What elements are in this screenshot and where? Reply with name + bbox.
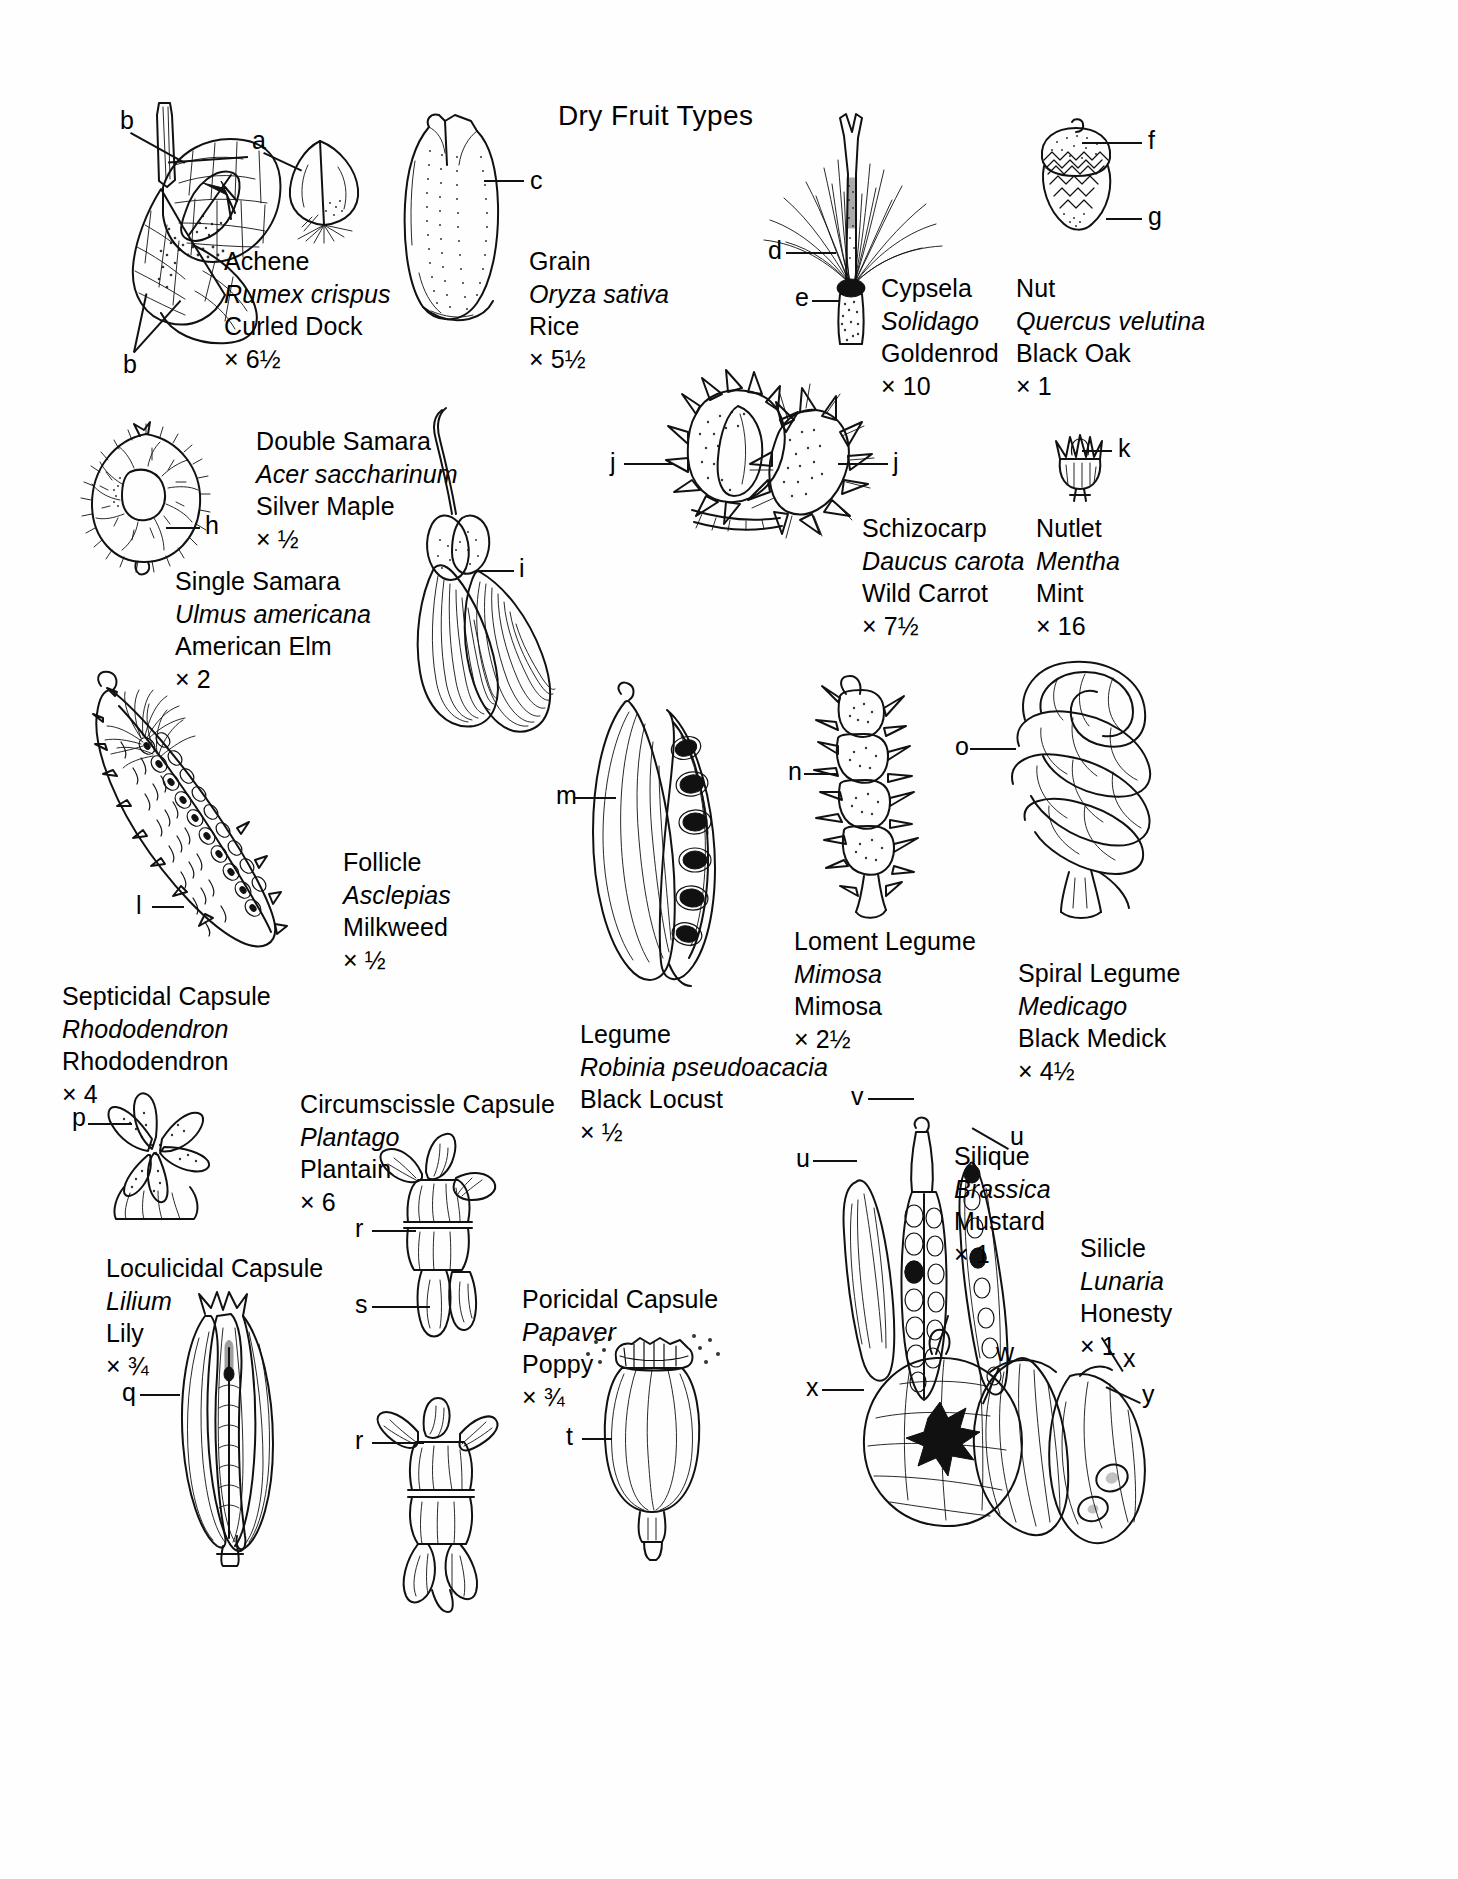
caption-scientific: Ulmus americana [175, 598, 371, 631]
leader-letter-f: f [1148, 128, 1155, 153]
caption-scientific: Lunaria [1080, 1265, 1172, 1298]
caption-type: Schizocarp [862, 512, 1025, 545]
leader-line-h [166, 527, 200, 529]
leader-line-i [478, 570, 514, 572]
caption-magnification: × 7½ [862, 610, 1025, 643]
leader-line-g [1106, 218, 1142, 220]
leader-letter-t: t [566, 1424, 573, 1449]
leader-letter-h: h [205, 513, 219, 538]
leader-letter-d: d [768, 238, 782, 263]
figure-nutlet [1040, 425, 1120, 503]
leader-letter-o: o [955, 734, 969, 759]
leader-line-o [970, 748, 1016, 750]
caption-type: Loment Legume [794, 925, 976, 958]
caption-magnification: × 10 [881, 370, 999, 403]
caption-type: Nut [1016, 272, 1205, 305]
caption-common: Milkweed [343, 911, 451, 944]
figure-circumscissle-lower [360, 1390, 520, 1620]
caption-silique: Silique Brassica Mustard × 1 [954, 1140, 1051, 1270]
leader-line-x1 [822, 1389, 864, 1391]
caption-loment-legume: Loment Legume Mimosa Mimosa × 2½ [794, 925, 976, 1055]
leader-letter-k: k [1118, 436, 1131, 461]
caption-scientific: Quercus velutina [1016, 305, 1205, 338]
caption-common: Black Oak [1016, 337, 1205, 370]
caption-common: American Elm [175, 630, 371, 663]
leader-letter-r2: r [355, 1428, 363, 1453]
caption-schizocarp: Schizocarp Daucus carota Wild Carrot × 7… [862, 512, 1025, 642]
leader-line-f [1082, 142, 1142, 144]
figure-follicle [85, 670, 325, 960]
caption-magnification: × 2½ [794, 1023, 976, 1056]
leader-letter-b2: b [123, 352, 137, 377]
leader-letter-m: m [556, 783, 577, 808]
caption-common: Wild Carrot [862, 577, 1025, 610]
leader-line-s [372, 1306, 430, 1308]
leader-letter-n: n [788, 759, 802, 784]
figure-poricidal-capsule [580, 1320, 730, 1560]
leader-letter-s: s [355, 1292, 368, 1317]
figure-silicle [840, 1310, 1220, 1570]
leader-line-t [582, 1438, 612, 1440]
caption-common: Rhododendron [62, 1045, 271, 1078]
caption-type: Loculicidal Capsule [106, 1252, 323, 1285]
leader-letter-a: a [252, 128, 266, 153]
caption-scientific: Asclepias [343, 879, 451, 912]
leader-letter-l: l [136, 893, 142, 918]
figure-single-samara [78, 420, 218, 580]
leader-line-l [152, 906, 184, 908]
caption-common: Black Medick [1018, 1022, 1181, 1055]
caption-type: Follicle [343, 846, 451, 879]
figure-spiral-legume [965, 650, 1185, 920]
caption-type: Silique [954, 1140, 1051, 1173]
caption-magnification: × 6½ [224, 343, 391, 376]
figure-achene-detached [268, 135, 378, 245]
caption-nutlet: Nutlet Mentha Mint × 16 [1036, 512, 1120, 642]
leader-line-k [1082, 450, 1112, 452]
caption-common: Mustard [954, 1205, 1051, 1238]
leader-line-c [484, 180, 524, 182]
caption-legume: Legume Robinia pseudoacacia Black Locust… [580, 1018, 828, 1148]
leader-letter-j2: j [893, 450, 899, 475]
caption-type: Spiral Legume [1018, 957, 1181, 990]
leader-letter-v: v [851, 1084, 864, 1109]
caption-septicidal-capsule: Septicidal Capsule Rhododendron Rhododen… [62, 980, 271, 1110]
caption-common: Curled Dock [224, 310, 391, 343]
caption-magnification: × 1 [954, 1238, 1051, 1271]
leader-line-d [786, 252, 836, 254]
caption-scientific: Robinia pseudoacacia [580, 1051, 828, 1084]
figure-loment-legume [800, 672, 950, 922]
leader-line-q [140, 1394, 180, 1396]
caption-scientific: Medicago [1018, 990, 1181, 1023]
caption-follicle: Follicle Asclepias Milkweed × ½ [343, 846, 451, 976]
caption-magnification: × ½ [343, 944, 451, 977]
caption-nut: Nut Quercus velutina Black Oak × 1 [1016, 272, 1205, 402]
figure-legume [545, 680, 765, 1000]
caption-common: Rice [529, 310, 669, 343]
caption-common: Black Locust [580, 1083, 828, 1116]
leader-letter-j1: j [610, 450, 616, 475]
leader-letter-u1: u [796, 1146, 810, 1171]
caption-type: Septicidal Capsule [62, 980, 271, 1013]
caption-scientific: Daucus carota [862, 545, 1025, 578]
caption-type: Single Samara [175, 565, 371, 598]
caption-magnification: × 16 [1036, 610, 1120, 643]
leader-line-u1 [813, 1160, 857, 1162]
figure-loculicidal-capsule [155, 1288, 315, 1568]
dry-fruit-types-plate: Dry Fruit Types [0, 0, 1458, 1879]
leader-letter-g: g [1148, 204, 1162, 229]
caption-common: Mimosa [794, 990, 976, 1023]
leader-line-j1 [624, 463, 674, 465]
caption-type: Achene [224, 245, 391, 278]
caption-magnification: × ½ [580, 1116, 828, 1149]
caption-type: Legume [580, 1018, 828, 1051]
figure-nut [1012, 118, 1142, 243]
caption-type: Cypsela [881, 272, 999, 305]
caption-achene: Achene Rumex crispus Curled Dock × 6½ [224, 245, 391, 375]
caption-magnification: × 1 [1016, 370, 1205, 403]
figure-grain [385, 105, 535, 340]
leader-line-m [574, 797, 616, 799]
caption-grain: Grain Oryza sativa Rice × 5½ [529, 245, 669, 375]
figure-septicidal-capsule [90, 1093, 220, 1223]
figure-circumscissle-upper [360, 1130, 520, 1350]
leader-line-p [88, 1123, 132, 1125]
